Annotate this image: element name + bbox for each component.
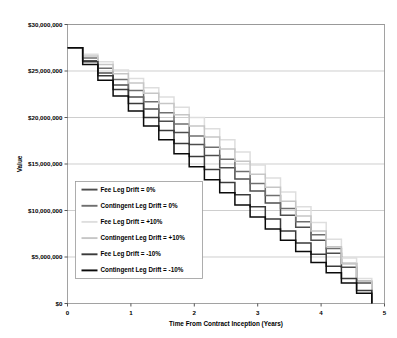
y-tick-label: $30,000,000: [28, 21, 63, 28]
legend-label-2: Fee Leg Drift = +10%: [101, 218, 163, 226]
y-tick-label: $20,000,000: [28, 114, 63, 121]
y-tick-label: $10,000,000: [28, 207, 63, 214]
legend-label-5: Contingent Leg Drift = -10%: [101, 266, 184, 274]
legend-label-0: Fee Leg Drift = 0%: [101, 186, 156, 194]
x-tick-label: 3: [256, 309, 260, 316]
x-axis-title: Time From Contract Inception (Years): [169, 320, 283, 328]
legend-label-1: Contingent Leg Drift = 0%: [101, 202, 179, 210]
x-axis: 012345: [66, 304, 387, 316]
legend-label-4: Fee Leg Drift = -10%: [101, 250, 162, 258]
y-tick-label: $15,000,000: [28, 160, 63, 167]
legend-background: [76, 182, 203, 279]
x-tick-label: 5: [383, 309, 387, 316]
chart-container: $0$5,000,000$10,000,000$15,000,000$20,00…: [0, 0, 397, 338]
step-line-chart: $0$5,000,000$10,000,000$15,000,000$20,00…: [0, 0, 397, 338]
x-tick-label: 2: [193, 309, 197, 316]
x-tick-label: 4: [319, 309, 323, 316]
legend-label-3: Contingent Leg Drift = +10%: [101, 234, 186, 242]
y-axis-title: Value: [16, 155, 23, 172]
x-tick-label: 0: [66, 309, 70, 316]
y-tick-label: $25,000,000: [28, 67, 63, 74]
y-axis: $0$5,000,000$10,000,000$15,000,000$20,00…: [28, 21, 67, 307]
y-tick-label: $5,000,000: [32, 253, 64, 260]
y-tick-label: $0: [56, 300, 63, 307]
legend[interactable]: Fee Leg Drift = 0%Contingent Leg Drift =…: [76, 182, 203, 279]
x-tick-label: 1: [129, 309, 133, 316]
